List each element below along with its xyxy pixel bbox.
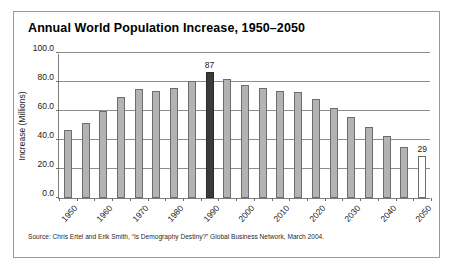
x-tick-label-1950: 1950 bbox=[59, 203, 79, 224]
plot-area: Increase (Millions) 100.080.060.040.020.… bbox=[14, 12, 441, 259]
bar-2025 bbox=[330, 108, 338, 198]
bar-2030 bbox=[347, 117, 355, 198]
bar-1955 bbox=[82, 123, 90, 198]
x-tick-mark bbox=[94, 198, 95, 201]
x-tick-label-1990: 1990 bbox=[201, 203, 221, 224]
bar-2040 bbox=[383, 136, 391, 198]
bar-1970 bbox=[135, 89, 143, 198]
x-tick-label-1960: 1960 bbox=[95, 203, 115, 224]
y-axis-title: Increase (Millions) bbox=[17, 92, 27, 161]
bar-1980 bbox=[170, 88, 178, 198]
bar-2005 bbox=[259, 88, 267, 198]
bar-1950 bbox=[64, 130, 72, 198]
bar-series: 8729 bbox=[59, 54, 430, 198]
x-tick-mark bbox=[307, 198, 308, 201]
bar-1990 bbox=[206, 72, 214, 198]
x-tick-mark bbox=[77, 198, 78, 201]
y-tick-label: 40.0 bbox=[37, 130, 54, 140]
x-tick-label-2040: 2040 bbox=[378, 203, 398, 224]
gridline bbox=[59, 52, 430, 53]
y-tick-label: 80.0 bbox=[37, 72, 54, 82]
x-tick-label-2010: 2010 bbox=[272, 203, 292, 224]
x-tick-label-2050: 2050 bbox=[413, 203, 433, 224]
bar-1960 bbox=[99, 111, 107, 198]
x-tick-mark bbox=[148, 198, 149, 201]
source-note: Source: Chris Ertel and Erik Smith, “Is … bbox=[28, 233, 324, 240]
x-tick-mark bbox=[112, 198, 113, 201]
bar-1995 bbox=[223, 79, 231, 198]
x-tick-mark bbox=[218, 198, 219, 201]
bar-2000 bbox=[241, 85, 249, 198]
x-tick-mark bbox=[396, 198, 397, 201]
x-tick-mark bbox=[183, 198, 184, 201]
figure-frame: Annual World Population Increase, 1950–2… bbox=[13, 11, 440, 258]
x-tick-label-2000: 2000 bbox=[236, 203, 256, 224]
bar-2020 bbox=[312, 99, 320, 198]
x-tick-mark bbox=[272, 198, 273, 201]
x-tick-mark bbox=[431, 198, 432, 201]
y-tick-label: 100.0 bbox=[33, 43, 54, 53]
x-tick-mark bbox=[325, 198, 326, 201]
bar-value-label-2050: 29 bbox=[417, 144, 426, 154]
y-tick-label: 60.0 bbox=[37, 101, 54, 111]
x-tick-mark bbox=[59, 198, 60, 201]
x-tick-mark bbox=[360, 198, 361, 201]
x-tick-mark bbox=[254, 198, 255, 201]
bar-1975 bbox=[152, 91, 160, 198]
bar-2015 bbox=[294, 92, 302, 198]
x-tick-mark bbox=[342, 198, 343, 201]
x-tick-label-2030: 2030 bbox=[343, 203, 363, 224]
x-tick-label-2020: 2020 bbox=[307, 203, 327, 224]
x-tick-label-1980: 1980 bbox=[165, 203, 185, 224]
x-tick-mark bbox=[413, 198, 414, 201]
x-tick-mark bbox=[130, 198, 131, 201]
bar-2035 bbox=[365, 127, 373, 198]
bar-1965 bbox=[117, 97, 125, 199]
x-tick-mark bbox=[165, 198, 166, 201]
y-tick-mark bbox=[56, 52, 59, 53]
y-tick-label: 0.0 bbox=[42, 188, 54, 198]
plot-box: 100.080.060.040.020.00.0 8729 1950196019… bbox=[58, 54, 430, 199]
x-tick-label-1970: 1970 bbox=[130, 203, 150, 224]
x-tick-mark bbox=[289, 198, 290, 201]
x-tick-mark bbox=[201, 198, 202, 201]
x-tick-mark bbox=[236, 198, 237, 201]
bar-value-label-1990: 87 bbox=[205, 60, 214, 70]
x-tick-mark bbox=[378, 198, 379, 201]
y-tick-label: 20.0 bbox=[37, 159, 54, 169]
bar-2045 bbox=[400, 147, 408, 198]
bar-2010 bbox=[276, 91, 284, 198]
bar-1985 bbox=[188, 81, 196, 198]
bar-2050 bbox=[418, 156, 426, 198]
